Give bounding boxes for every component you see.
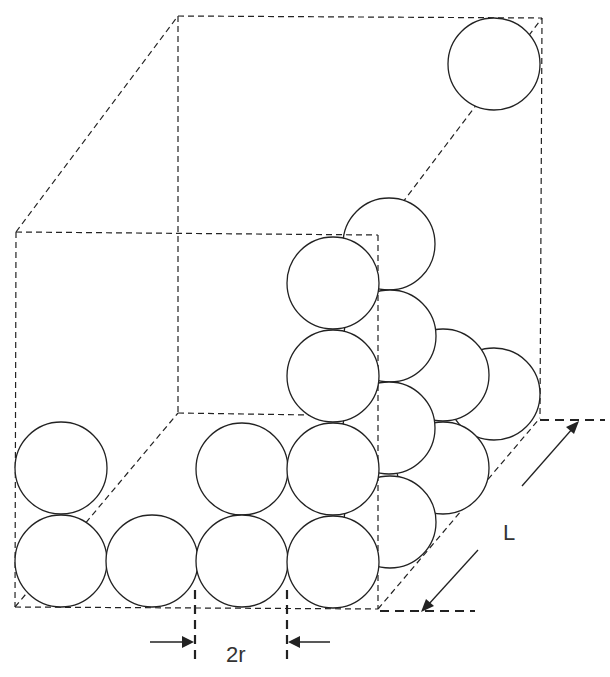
diameter-label: 2r <box>226 642 246 668</box>
sphere <box>287 237 379 329</box>
box-depth-edges <box>15 16 542 609</box>
arrow-right-icon <box>182 636 194 648</box>
sphere <box>448 18 540 110</box>
sphere-packing-diagram <box>0 0 610 677</box>
sphere <box>196 515 288 607</box>
sphere <box>287 423 379 515</box>
spheres-front <box>15 237 379 608</box>
sphere <box>106 515 198 607</box>
sphere <box>287 516 379 608</box>
arrow-up-right-icon <box>566 421 579 434</box>
sphere <box>196 423 288 515</box>
length-label: L <box>503 520 515 546</box>
arrow-left-icon <box>288 636 300 648</box>
sphere <box>15 422 107 514</box>
sphere <box>287 330 379 422</box>
sphere <box>15 515 107 607</box>
